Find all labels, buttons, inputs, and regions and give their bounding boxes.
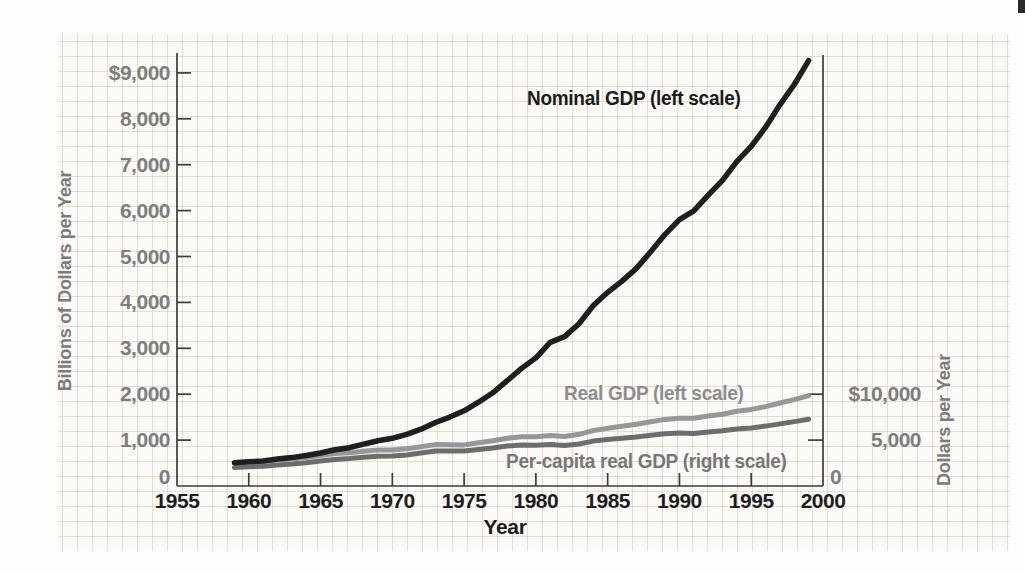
right-axis-tick-label: $10,000: [849, 382, 921, 405]
series-label-per-capita-real-gdp: Per-capita real GDP (right scale): [506, 450, 787, 473]
x-axis-tick-label: 1960: [226, 489, 271, 512]
x-axis-tick-label: 1970: [370, 489, 415, 512]
x-axis-tick-label: 1955: [155, 489, 201, 512]
gdp-line-chart: $9,0008,0007,0006,0005,0004,0003,0002,00…: [0, 0, 1025, 574]
right-axis-tick-label: 0: [830, 465, 841, 488]
left-axis-tick-label: $9,000: [109, 61, 170, 84]
x-axis-tick-label: 1985: [585, 489, 631, 512]
left-axis-tick-label: 4,000: [120, 290, 170, 313]
right-axis-title: Dollars per Year: [934, 354, 955, 486]
x-axis-tick-label: 1980: [514, 489, 559, 512]
left-axis-tick-label: 7,000: [120, 153, 170, 176]
x-axis-tick-label: 2000: [801, 489, 846, 512]
left-axis-tick-label: 5,000: [120, 245, 170, 268]
series-label-real-gdp: Real GDP (left scale): [564, 382, 744, 405]
x-axis-tick-label: 1995: [729, 489, 775, 512]
left-axis-tick-label: 8,000: [120, 107, 170, 130]
left-axis-title: Billions of Dollars per Year: [55, 171, 76, 391]
x-axis-title: Year: [483, 515, 526, 539]
left-axis-tick-label: 6,000: [120, 199, 170, 222]
left-axis-tick-label: 2,000: [120, 382, 170, 405]
x-axis-tick-label: 1965: [298, 489, 344, 512]
right-axis-tick-label: 5,000: [871, 428, 921, 451]
x-axis-tick-label: 1975: [442, 489, 488, 512]
left-axis-tick-label: 1,000: [120, 428, 170, 451]
figure-page: $9,0008,0007,0006,0005,0004,0003,0002,00…: [0, 0, 1025, 574]
left-axis-tick-label: 3,000: [120, 336, 170, 359]
series-label-nominal-gdp: Nominal GDP (left scale): [527, 87, 740, 110]
left-axis-tick-label: 0: [159, 465, 170, 488]
x-axis-tick-label: 1990: [657, 489, 702, 512]
